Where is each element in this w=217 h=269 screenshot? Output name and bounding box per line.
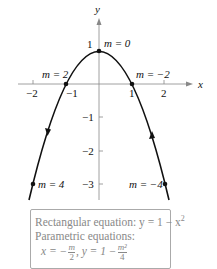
equation-box: Rectangular equation: y = 1 − x2 Paramet…	[30, 209, 171, 269]
point-mneg2	[130, 82, 135, 87]
y-tick-neg3: −3	[82, 178, 94, 190]
x-axis-arrow-icon	[186, 82, 193, 87]
parametric-x-den: 2	[68, 253, 75, 262]
label-m2: m = 2	[42, 68, 69, 80]
label-mneg2: m = −2	[136, 68, 170, 80]
x-ticks	[33, 80, 164, 84]
point-m4	[31, 182, 36, 187]
parametric-x: x = −	[41, 245, 67, 257]
y-ticks	[99, 117, 103, 184]
x-tick-neg1: −1	[66, 87, 78, 99]
y-tick-1: 1	[87, 38, 93, 50]
label-mneg4: m = −4	[129, 178, 163, 190]
parametric-y: , y = 1 −	[76, 245, 117, 257]
parametric-equations: x = −m2, y = 1 −m²4	[35, 243, 166, 262]
point-m2	[64, 82, 69, 87]
rectangular-exponent: 2	[181, 214, 185, 223]
label-m0: m = 0	[104, 37, 131, 49]
y-tick-neg2: −2	[82, 145, 94, 157]
rectangular-equation-text: Rectangular equation: y = 1 − x	[35, 216, 181, 228]
parametric-y-den: 4	[118, 253, 127, 262]
point-mneg4	[163, 182, 168, 187]
y-tick-neg1: −1	[82, 111, 94, 123]
x-axis-label: x	[197, 78, 203, 90]
label-m4: m = 4	[38, 178, 65, 190]
parametric-equations-label: Parametric equations:	[35, 229, 166, 243]
x-tick-neg2: −2	[26, 87, 38, 99]
y-axis-label: y	[94, 3, 100, 15]
point-m0	[97, 49, 102, 54]
rectangular-equation: Rectangular equation: y = 1 − x2	[35, 212, 166, 229]
x-tick-2: 2	[161, 87, 167, 99]
y-axis-arrow-icon	[97, 18, 102, 25]
